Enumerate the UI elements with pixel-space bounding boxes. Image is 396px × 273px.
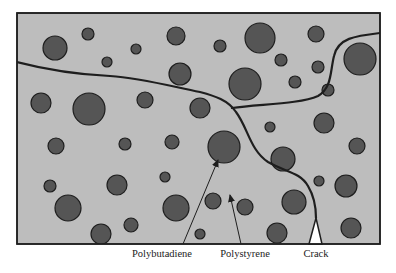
polybutadiene-particle: [314, 176, 324, 186]
microstructure-diagram: [0, 0, 396, 273]
label-polystyrene: Polystyrene: [220, 248, 270, 259]
label-crack: Crack: [303, 248, 328, 259]
polybutadiene-particle: [163, 195, 189, 221]
polybutadiene-particle: [344, 43, 376, 75]
polybutadiene-particle: [214, 40, 226, 52]
polybutadiene-particle: [349, 138, 365, 154]
polybutadiene-particle: [160, 172, 170, 182]
polybutadiene-particle: [137, 92, 153, 108]
polybutadiene-particle: [314, 113, 334, 133]
polybutadiene-particle: [282, 190, 306, 214]
polybutadiene-particle: [312, 61, 324, 73]
polybutadiene-particle: [190, 98, 210, 118]
polybutadiene-particle: [205, 193, 221, 209]
polybutadiene-particle: [43, 36, 67, 60]
polybutadiene-particle: [167, 27, 185, 45]
polybutadiene-particle: [107, 175, 127, 195]
polybutadiene-particle: [165, 135, 179, 149]
polybutadiene-particle: [208, 131, 240, 163]
polybutadiene-particle: [275, 54, 287, 66]
polybutadiene-particle: [102, 57, 112, 67]
polybutadiene-particle: [169, 63, 191, 85]
polybutadiene-particle: [308, 26, 324, 42]
polybutadiene-particle: [271, 147, 295, 171]
polybutadiene-particle: [195, 229, 205, 239]
polybutadiene-particle: [82, 28, 94, 40]
polybutadiene-particle: [119, 138, 131, 150]
polybutadiene-particle: [245, 23, 275, 53]
polybutadiene-particle: [44, 180, 56, 192]
polybutadiene-particle: [48, 138, 64, 154]
label-polybutadiene: Polybutadiene: [132, 248, 192, 259]
polybutadiene-particle: [73, 93, 105, 125]
polybutadiene-particle: [341, 218, 361, 238]
polybutadiene-particle: [237, 199, 253, 215]
polybutadiene-particle: [131, 44, 141, 54]
polybutadiene-particle: [124, 218, 138, 232]
polybutadiene-particle: [267, 223, 287, 243]
polybutadiene-particle: [265, 122, 275, 132]
polybutadiene-particle: [289, 76, 301, 88]
polybutadiene-particle: [31, 93, 51, 113]
polybutadiene-particle: [335, 175, 357, 197]
polybutadiene-particle: [229, 68, 261, 100]
polybutadiene-particle: [55, 195, 81, 221]
polybutadiene-particle: [91, 224, 111, 244]
